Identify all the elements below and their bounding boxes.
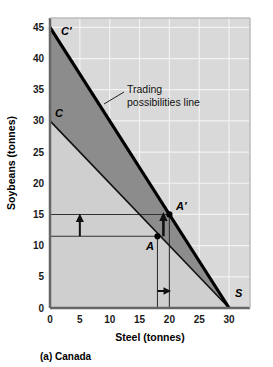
trading-line-annotation-line2: possibilities line: [127, 96, 200, 108]
y-tick-label-5: 5: [38, 271, 44, 282]
chart-svg: 0 5 10 15 20 25 30 35 40 45 0 5 10 15 20…: [0, 0, 273, 367]
y-tick-label-40: 40: [33, 53, 45, 64]
label-A: A: [145, 240, 154, 252]
y-tick-label-0: 0: [38, 303, 44, 314]
x-tick-label-30: 30: [224, 314, 236, 325]
y-tick-label-35: 35: [33, 84, 45, 95]
y-tick-label-30: 30: [33, 115, 45, 126]
x-axis-title: Steel (tonnes): [115, 331, 184, 343]
label-C: C: [55, 107, 64, 119]
x-tick-label-20: 20: [164, 314, 176, 325]
y-axis-title: Soybeans (tonnes): [5, 116, 17, 210]
y-tick-label-45: 45: [33, 22, 45, 33]
y-tick-label-20: 20: [33, 178, 45, 189]
label-S: S: [235, 287, 243, 299]
y-tick-label-15: 15: [33, 209, 45, 220]
label-A-prime: A′: [175, 200, 188, 212]
x-tick-label-0: 0: [47, 314, 53, 325]
figure-canada-trading-possibilities: 0 5 10 15 20 25 30 35 40 45 0 5 10 15 20…: [0, 0, 273, 367]
point-marker-A-prime: [166, 211, 172, 217]
y-tick-label-10: 10: [33, 240, 45, 251]
x-tick-label-15: 15: [134, 314, 146, 325]
trading-line-annotation-line1: Trading: [127, 83, 162, 95]
point-marker-A: [154, 233, 160, 239]
x-tick-label-5: 5: [77, 314, 83, 325]
x-tick-label-10: 10: [104, 314, 116, 325]
label-C-prime: C′: [61, 25, 73, 37]
y-tick-label-25: 25: [33, 147, 45, 158]
x-tick-label-25: 25: [194, 314, 206, 325]
figure-caption: (a) Canada: [40, 351, 92, 362]
